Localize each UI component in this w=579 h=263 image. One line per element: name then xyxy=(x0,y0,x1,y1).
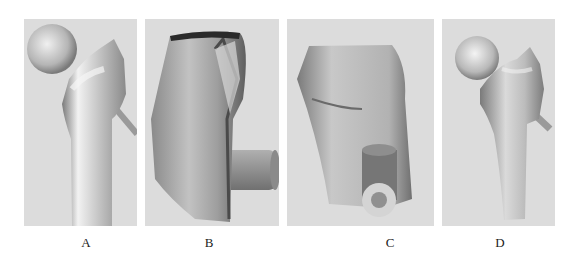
figure-panel-b xyxy=(145,19,279,226)
figure-panel-d xyxy=(442,19,555,226)
femur-model-a-image xyxy=(24,19,137,226)
femur-model-d-image xyxy=(442,19,555,226)
panel-label-b: B xyxy=(189,235,229,251)
figure-panel-c xyxy=(287,19,434,226)
figure-panel-a xyxy=(24,19,137,226)
femur-model-b-image xyxy=(145,19,279,226)
femur-model-c-image xyxy=(287,19,434,226)
panel-label-a: A xyxy=(66,235,106,251)
panel-label-d: D xyxy=(480,235,520,251)
panel-label-c: C xyxy=(370,235,410,251)
